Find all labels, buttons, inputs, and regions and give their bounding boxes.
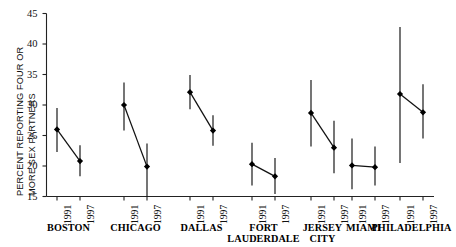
y-tick-label: 35 — [18, 69, 38, 80]
y-tick-label: 20 — [18, 160, 38, 171]
x-tick-label: 1997 — [280, 204, 291, 223]
group-label: PHILADELPHIA — [352, 222, 456, 233]
x-tick-label: 1997 — [339, 204, 350, 223]
x-tick-label: 1997 — [152, 204, 163, 223]
x-tick-label: 1991 — [129, 204, 140, 223]
y-tick-label: 15 — [18, 191, 38, 202]
x-tick-label: 1991 — [195, 204, 206, 223]
y-tick-label: 25 — [18, 130, 38, 141]
group-label-line: CITY — [263, 233, 383, 244]
x-tick-label: 1997 — [85, 204, 96, 223]
x-tick-label: 1991 — [316, 204, 327, 223]
y-tick-label: 30 — [18, 99, 38, 110]
x-tick-label: 1991 — [257, 204, 268, 223]
data-series — [54, 27, 426, 197]
x-tick-label: 1997 — [218, 204, 229, 223]
y-tick-label: 40 — [18, 38, 38, 49]
x-tick-label: 1997 — [380, 204, 391, 223]
group-label-line: PHILADELPHIA — [372, 222, 452, 233]
x-tick-label: 1991 — [62, 204, 73, 223]
x-tick-label: 1991 — [357, 204, 368, 223]
x-tick-label: 1997 — [428, 204, 439, 223]
x-tick-label: 1991 — [405, 204, 416, 223]
y-tick-label: 45 — [18, 8, 38, 19]
